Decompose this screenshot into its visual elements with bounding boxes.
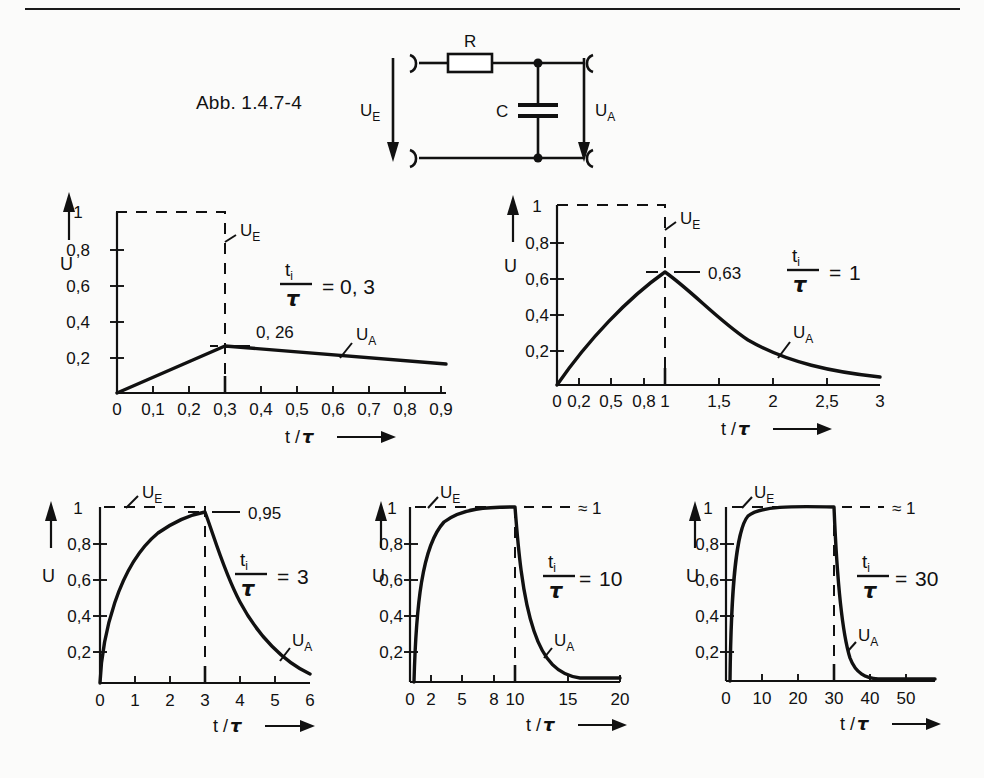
input-voltage-arrow [387, 58, 399, 162]
svg-text:1: 1 [73, 203, 82, 222]
y-axis-label-3: U [42, 566, 55, 586]
svg-text:1: 1 [73, 499, 82, 518]
ratio-annotation-2: ti τ = 1 [787, 245, 861, 297]
x-axis-name-1: t /τ [285, 426, 396, 447]
svg-text:0,2: 0,2 [66, 349, 90, 368]
svg-text:0: 0 [552, 392, 561, 411]
svg-text:0,2: 0,2 [567, 392, 591, 411]
svg-text:0,2: 0,2 [177, 400, 201, 419]
output-label-5: UA [848, 626, 878, 651]
svg-text:2: 2 [165, 691, 174, 710]
svg-text:ti: ti [548, 551, 556, 575]
figure-caption: Abb. 1.4.7-4 [196, 92, 302, 114]
svg-text:0,6: 0,6 [525, 270, 549, 289]
svg-text:UE: UE [142, 483, 162, 506]
svg-text:UE: UE [680, 209, 700, 232]
chart-ti-tau-10: U 1 0,8 0,6 0,4 0,2 [348, 486, 678, 736]
output-label-1: UA [340, 325, 376, 358]
svg-text:0,4: 0,4 [525, 306, 549, 325]
peak-value-5: ≈ 1 [892, 499, 916, 518]
series-input-pulse-1 [117, 212, 225, 393]
svg-text:UA: UA [292, 631, 312, 654]
y-tick-labels-2: 1 0,8 0,6 0,4 0,2 [525, 197, 549, 361]
chart-svg-5: U 1 0,8 0,6 0,4 0,2 [662, 486, 984, 736]
svg-text:2: 2 [768, 392, 777, 411]
peak-marker-1: 0, 26 [210, 323, 294, 346]
output-voltage-arrow [578, 58, 590, 162]
chart-svg-3: U 1 0,8 0,6 0,4 0,2 [18, 486, 348, 736]
plot-frame-1 [117, 212, 446, 393]
svg-text:UA: UA [793, 323, 813, 346]
x-tick-labels-1: 0 0,1 0,2 0,3 0,4 0,5 0,6 0,7 0,8 0,9 [112, 400, 453, 419]
svg-text:0,5: 0,5 [285, 400, 309, 419]
x-tick-labels-4: 0 2 5 8 10 15 20 [405, 690, 629, 709]
x-tick-labels-5: 0 10 20 30 40 50 [721, 689, 915, 708]
svg-text:=: = [829, 261, 841, 284]
left-terminal-bottom [410, 150, 416, 167]
svg-text:6: 6 [305, 691, 314, 710]
ratio-value-2: 1 [849, 261, 861, 284]
input-label-5: UE [742, 483, 774, 508]
svg-text:t /τ: t /τ [721, 418, 750, 439]
svg-text:0: 0 [95, 691, 104, 710]
svg-text:=: = [895, 567, 907, 590]
svg-text:1,5: 1,5 [707, 392, 731, 411]
y-tick-labels-5: 1 0,8 0,6 0,4 0,2 [695, 499, 719, 662]
chart-ti-tau-3: U 1 0,8 0,6 0,4 0,2 [18, 486, 348, 736]
ratio-annotation-4: ti τ = 10 [543, 551, 622, 603]
svg-text:t /τ: t /τ [213, 715, 242, 736]
svg-text:8: 8 [489, 690, 498, 709]
svg-text:0,8: 0,8 [67, 535, 91, 554]
svg-text:30: 30 [825, 689, 844, 708]
svg-text:15: 15 [559, 690, 578, 709]
right-terminal-top [587, 55, 593, 72]
svg-text:1: 1 [660, 392, 669, 411]
svg-text:5: 5 [457, 690, 466, 709]
peak-value-2: 0,63 [708, 264, 741, 283]
svg-text:0: 0 [721, 689, 730, 708]
svg-text:0,4: 0,4 [66, 313, 90, 332]
y-axis-arrow [45, 501, 57, 548]
peak-value-3: 0,95 [248, 504, 281, 523]
svg-text:τ: τ [793, 273, 807, 297]
rc-circuit-diagram: UE R C [352, 38, 642, 188]
y-tick-labels-3: 1 0,8 0,6 0,4 0,2 [67, 499, 91, 662]
svg-text:t /τ: t /τ [526, 714, 555, 735]
plot-frame-5 [726, 507, 935, 681]
svg-text:1: 1 [532, 197, 541, 216]
series-output-response-4 [414, 507, 620, 682]
chart-svg-4: U 1 0,8 0,6 0,4 0,2 [348, 486, 678, 736]
series-output-response-3 [100, 512, 310, 683]
svg-text:UE: UE [240, 221, 260, 244]
peak-value-4: ≈ 1 [578, 499, 602, 518]
series-output-response-5 [730, 507, 935, 681]
output-label-2: UA [778, 323, 813, 358]
series-output-response-1 [117, 346, 446, 393]
series-output-response-2 [557, 272, 880, 385]
y-axis-label-2: U [504, 256, 517, 276]
svg-text:=: = [322, 275, 334, 298]
svg-text:3: 3 [200, 691, 209, 710]
svg-text:2,5: 2,5 [815, 392, 839, 411]
svg-text:0,8: 0,8 [393, 400, 417, 419]
x-tickmarks-2 [579, 368, 827, 385]
svg-text:ti: ti [862, 551, 870, 575]
figure-page: Abb. 1.4.7-4 UE R [0, 0, 984, 778]
svg-text:0,4: 0,4 [67, 607, 91, 626]
ratio-annotation-5: ti τ = 30 [857, 551, 938, 603]
svg-text:UA: UA [554, 631, 574, 654]
svg-text:0: 0 [405, 690, 414, 709]
input-label-4: UE [428, 483, 460, 508]
ratio-value-1: 0, 3 [340, 275, 375, 298]
svg-text:0,8: 0,8 [525, 234, 549, 253]
svg-text:0,4: 0,4 [379, 607, 403, 626]
series-input-pulse-2 [557, 205, 665, 385]
svg-text:τ: τ [241, 577, 255, 601]
x-tick-labels-3: 0 1 2 3 4 5 6 [95, 691, 314, 710]
svg-text:0,2: 0,2 [379, 643, 403, 662]
svg-text:UA: UA [356, 325, 376, 348]
svg-text:0,8: 0,8 [695, 535, 719, 554]
input-voltage-label: UE [360, 101, 380, 124]
svg-text:0,3: 0,3 [213, 400, 237, 419]
svg-text:τ: τ [549, 579, 563, 603]
